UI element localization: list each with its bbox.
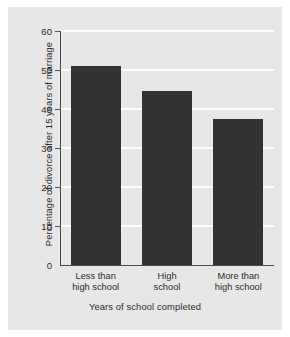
gridline (60, 30, 274, 32)
y-axis-tick (55, 187, 60, 188)
y-axis-tick-label: 10 (41, 221, 52, 232)
y-axis-tick-label: 60 (41, 26, 52, 37)
category-label-line: high school (183, 282, 290, 293)
category-label-line: More than (183, 271, 290, 282)
x-axis-title: Years of school completed (8, 301, 282, 312)
category-label: More thanhigh school (183, 271, 290, 294)
y-axis-tick (55, 70, 60, 71)
y-axis-tick-label: 50 (41, 65, 52, 76)
y-axis-tick-label: 40 (41, 104, 52, 115)
y-axis-line (60, 31, 61, 265)
y-axis-tick-label: 30 (41, 143, 52, 154)
y-axis-tick (55, 31, 60, 32)
y-axis-tick (55, 226, 60, 227)
bar (71, 66, 121, 265)
x-axis-line (60, 265, 274, 266)
figure-panel: Percentage of divorce after 15 years of … (8, 7, 282, 330)
bar (142, 91, 192, 265)
y-axis-tick-label: 20 (41, 182, 52, 193)
plot-area: 0102030405060 Less thanhigh schoolHighsc… (60, 31, 274, 265)
y-axis-tick (55, 148, 60, 149)
y-axis-tick (55, 109, 60, 110)
y-axis-tick-label: 0 (47, 260, 52, 271)
bar (213, 119, 263, 265)
